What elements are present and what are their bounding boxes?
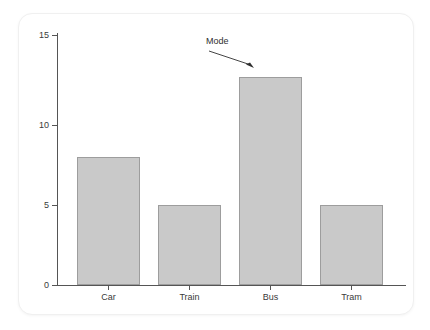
x-tick-mark-train bbox=[189, 286, 190, 290]
x-label-car: Car bbox=[78, 292, 139, 303]
y-tick-mark-5 bbox=[52, 205, 58, 206]
y-tick-label-10: 10 bbox=[39, 121, 49, 130]
x-label-train: Train bbox=[159, 292, 220, 303]
bar-tram[interactable] bbox=[320, 205, 383, 285]
x-label-tram: Tram bbox=[321, 292, 382, 303]
x-label-bus: Bus bbox=[240, 292, 301, 303]
y-tick-mark-10 bbox=[52, 125, 58, 126]
bar-bus[interactable] bbox=[239, 77, 302, 285]
y-tick-label-5: 5 bbox=[44, 201, 49, 210]
y-tick-label-0: 0 bbox=[44, 281, 49, 290]
annotation-label-mode: Mode bbox=[206, 36, 229, 47]
y-tick-mark-0 bbox=[52, 285, 58, 286]
x-tick-mark-bus bbox=[270, 286, 271, 290]
x-tick-mark-car bbox=[108, 286, 109, 290]
y-tick-mark-15 bbox=[52, 35, 58, 36]
y-axis-line bbox=[57, 33, 58, 286]
page-root: 15 10 5 0 Car Train Bus Tram Mode bbox=[0, 0, 430, 330]
x-tick-mark-tram bbox=[351, 286, 352, 290]
y-tick-label-15: 15 bbox=[39, 31, 49, 40]
bar-chart: 15 10 5 0 Car Train Bus Tram Mode bbox=[0, 0, 430, 330]
x-axis-line bbox=[57, 285, 406, 286]
bar-car[interactable] bbox=[77, 157, 140, 285]
bar-train[interactable] bbox=[158, 205, 221, 285]
